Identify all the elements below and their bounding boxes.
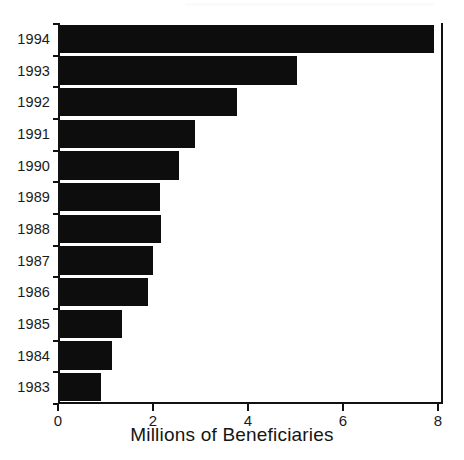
bar-row bbox=[60, 373, 441, 402]
y-tick-label-1990: 1990 bbox=[17, 159, 50, 174]
bar-row bbox=[60, 341, 441, 370]
y-tick-label-1987: 1987 bbox=[17, 254, 50, 269]
plot-area bbox=[58, 23, 443, 404]
y-tick-label-1992: 1992 bbox=[17, 95, 50, 110]
y-tick-label-1984: 1984 bbox=[17, 349, 50, 364]
y-tick-1983 bbox=[53, 371, 58, 373]
bar-row bbox=[60, 246, 441, 275]
bar-row bbox=[60, 278, 441, 307]
y-tick-label-1991: 1991 bbox=[17, 127, 50, 142]
y-tick-label-1989: 1989 bbox=[17, 190, 50, 205]
y-tick-label-1985: 1985 bbox=[17, 317, 50, 332]
bar-row bbox=[60, 88, 441, 117]
y-tick-1985 bbox=[53, 308, 58, 310]
bar-1985 bbox=[60, 310, 122, 339]
y-tick-1984 bbox=[53, 340, 58, 342]
bar-1994 bbox=[60, 25, 434, 54]
bar-1987 bbox=[60, 246, 153, 275]
y-tick-label-1988: 1988 bbox=[17, 222, 50, 237]
bar-1993 bbox=[60, 56, 297, 85]
bar-row bbox=[60, 120, 441, 149]
y-tick-1991 bbox=[53, 118, 58, 120]
bar-chart: 1994199319921991199019891988198719861985… bbox=[0, 0, 464, 460]
bar-row bbox=[60, 215, 441, 244]
bar-row bbox=[60, 310, 441, 339]
y-tick-1992 bbox=[53, 86, 58, 88]
y-tick-1993 bbox=[53, 55, 58, 57]
y-tick-1989 bbox=[53, 181, 58, 183]
y-tick-label-1983: 1983 bbox=[17, 380, 50, 395]
x-tick-2 bbox=[152, 404, 154, 411]
y-tick-label-1994: 1994 bbox=[17, 32, 50, 47]
y-tick-1990 bbox=[53, 150, 58, 152]
bar-1992 bbox=[60, 88, 237, 117]
y-tick-1986 bbox=[53, 276, 58, 278]
y-tick-label-1993: 1993 bbox=[17, 64, 50, 79]
bar-1983 bbox=[60, 373, 101, 402]
bar-row bbox=[60, 25, 441, 54]
x-tick-8 bbox=[437, 404, 439, 411]
x-tick-0 bbox=[57, 404, 59, 411]
x-tick-6 bbox=[342, 404, 344, 411]
bar-1990 bbox=[60, 151, 179, 180]
x-axis-title: Millions of Beneficiaries bbox=[0, 425, 464, 444]
y-tick-1987 bbox=[53, 245, 58, 247]
bar-1991 bbox=[60, 120, 195, 149]
bar-1984 bbox=[60, 341, 112, 370]
bar-1986 bbox=[60, 278, 148, 307]
bar-row bbox=[60, 151, 441, 180]
y-tick-1994 bbox=[53, 23, 58, 25]
y-tick-label-1986: 1986 bbox=[17, 285, 50, 300]
bar-row bbox=[60, 56, 441, 85]
x-tick-4 bbox=[247, 404, 249, 411]
bar-1988 bbox=[60, 215, 161, 244]
y-tick-1988 bbox=[53, 213, 58, 215]
bar-1989 bbox=[60, 183, 160, 212]
bar-row bbox=[60, 183, 441, 212]
scan-artifact bbox=[185, 3, 435, 6]
